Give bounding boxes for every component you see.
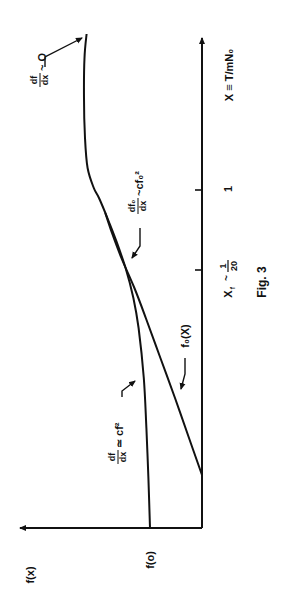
x-axis-label: X ≡ T/mN₀ xyxy=(223,49,235,101)
annot1-num: df xyxy=(29,75,39,84)
annotation-df-dx-zero: df dx ~ O xyxy=(29,53,50,87)
xf-main: X xyxy=(222,290,234,298)
annot1-rel: ~ O xyxy=(36,53,48,71)
annot3-den: dx xyxy=(118,452,128,463)
annotation-leader-2 xyxy=(132,228,140,258)
annotation-df0-dx: df₀ dx ~cf₀² xyxy=(127,171,148,214)
annotation-df-dx-cf2: df dx ≃ cf² xyxy=(107,422,128,464)
annot2-num: df₀ xyxy=(127,200,137,213)
figure-caption: Fig. 3 xyxy=(255,266,269,298)
annotation-leader-3 xyxy=(122,381,135,397)
annotation-leader-4 xyxy=(181,358,185,389)
xf-approx: ~ xyxy=(221,275,232,281)
f-axis-label: f(x) xyxy=(24,566,36,583)
annot2-den: dx xyxy=(138,201,148,212)
annot3-num: df xyxy=(107,452,117,461)
annotation-leader-1 xyxy=(45,38,82,67)
annot3-rel: ≃ cf² xyxy=(113,422,125,448)
xf-den: 20 xyxy=(229,261,239,271)
annot2-rel: ~cf₀² xyxy=(133,171,145,196)
x-tick-label-xf: X f ~ 1 20 xyxy=(218,260,239,298)
xf-sub: f xyxy=(229,286,236,289)
f0-tick-label: f(o) xyxy=(144,551,156,569)
figure-canvas: X ≡ T/mN₀ f(x) f(o) 1 X f ~ 1 20 Fig. 3 … xyxy=(0,0,284,608)
x-tick-label-1: 1 xyxy=(222,186,234,192)
annot1-den: dx xyxy=(40,75,50,86)
annotation-f0-label: f₀(X) xyxy=(179,324,191,348)
xf-num: 1 xyxy=(218,263,228,268)
